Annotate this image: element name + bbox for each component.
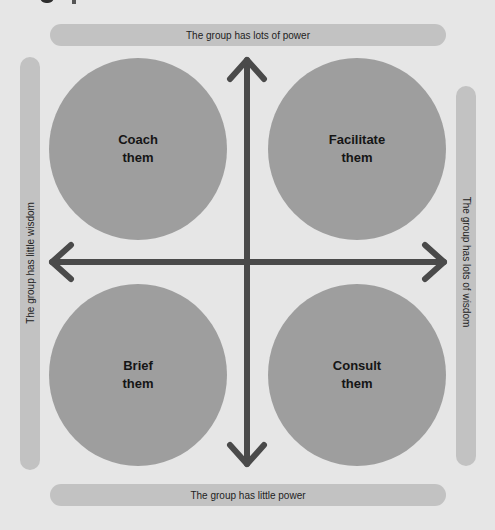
axis-arrows <box>0 0 495 530</box>
